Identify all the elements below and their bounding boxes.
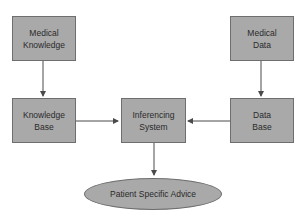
node-inferencing-system: Inferencing System bbox=[121, 98, 186, 143]
node-knowledge-base: Knowledge Base bbox=[12, 98, 76, 143]
node-label: Medical Data bbox=[247, 27, 276, 51]
node-patient-specific-advice: Patient Specific Advice bbox=[84, 178, 222, 210]
node-medical-knowledge: Medical Knowledge bbox=[12, 16, 76, 61]
node-label: Knowledge Base bbox=[23, 109, 65, 133]
node-label: Patient Specific Advice bbox=[110, 189, 196, 199]
node-data-base: Data Base bbox=[230, 98, 294, 143]
node-label: Inferencing System bbox=[132, 109, 174, 133]
node-label: Medical Knowledge bbox=[23, 27, 65, 51]
node-label: Data Base bbox=[252, 109, 271, 133]
node-medical-data: Medical Data bbox=[230, 16, 294, 61]
